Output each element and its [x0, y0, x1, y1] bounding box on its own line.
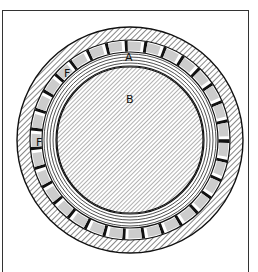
shaft: [57, 67, 203, 213]
label-shaft: B: [126, 93, 134, 106]
label-inner-race: A: [125, 51, 133, 64]
label-roller-1: F: [64, 67, 70, 80]
label-roller-2: F: [36, 136, 42, 149]
